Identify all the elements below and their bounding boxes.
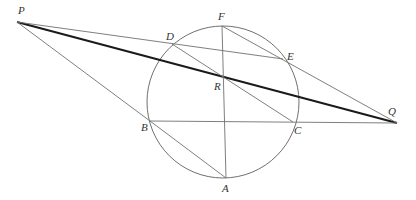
label-R: R xyxy=(213,80,221,92)
label-P: P xyxy=(17,4,25,16)
geometry-diagram: P Q F D E R B C A xyxy=(0,0,416,200)
segment-PB xyxy=(17,22,150,121)
label-C: C xyxy=(294,124,302,136)
line-segments xyxy=(17,22,397,178)
label-D: D xyxy=(165,30,174,42)
segment-FQ xyxy=(222,26,397,123)
label-E: E xyxy=(286,50,294,62)
label-A: A xyxy=(221,182,229,194)
segment-BQ xyxy=(150,121,397,123)
label-B: B xyxy=(141,121,148,133)
segment-PQ xyxy=(17,22,397,123)
segment-PE xyxy=(17,22,283,59)
segment-FA xyxy=(222,26,226,178)
label-F: F xyxy=(217,10,225,22)
point-labels: P Q F D E R B C A xyxy=(17,4,396,194)
label-Q: Q xyxy=(388,105,396,117)
